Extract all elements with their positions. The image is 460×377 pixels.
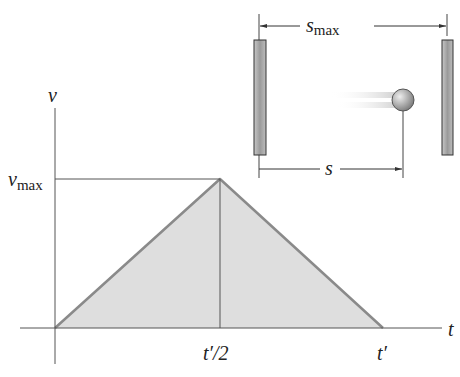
tick-end-time: t′ xyxy=(377,342,388,364)
right-wall xyxy=(442,40,453,155)
ball xyxy=(392,89,414,111)
velocity-time-graph: v t vmax t′/2 t′ xyxy=(8,84,454,364)
ball-motion-trail xyxy=(330,92,394,98)
v-max-label: vmax xyxy=(8,168,43,193)
area-under-curve xyxy=(55,179,383,328)
ball-motion-trail-2 xyxy=(336,102,396,108)
kinematics-diagram: v t vmax t′/2 t′ smax s xyxy=(0,0,460,377)
left-wall xyxy=(254,40,266,155)
t-axis-label: t xyxy=(448,318,454,340)
v-axis-label: v xyxy=(48,84,57,106)
s-label: s xyxy=(325,157,333,179)
tick-half-time: t′/2 xyxy=(203,342,229,364)
wall-ball-illustration: smax s xyxy=(254,14,453,179)
s-max-label: smax xyxy=(306,14,340,38)
